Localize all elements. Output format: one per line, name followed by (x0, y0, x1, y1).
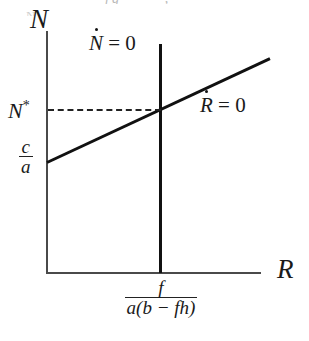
equilibrium-y-tick-label: N* (8, 95, 30, 122)
figure-canvas: ƒg—— —, — — N N R N = 0 R = 0 N* c a f a… (0, 0, 309, 341)
n-dot-nullcline-vertical-line (159, 44, 162, 273)
fraction-denominator: a(b − fh) (125, 297, 198, 317)
horizontal-axis-line (46, 272, 261, 274)
horizontal-axis-label: R (277, 256, 294, 283)
fraction-c-over-a: c a (19, 137, 33, 177)
vertical-axis-label: N (30, 6, 48, 33)
x-intercept-fraction-label: f a(b − fh) (98, 278, 224, 318)
r-dot-variable: R (200, 95, 213, 116)
fraction-f-over-abfh: f a(b − fh) (125, 278, 198, 318)
fraction-denominator: a (19, 156, 33, 176)
fraction-numerator: f (125, 278, 198, 297)
r-dot-equals-zero: = 0 (213, 93, 246, 117)
n-dot-nullcline-label: N = 0 (89, 33, 136, 54)
equilibrium-dashed-projector-line (48, 109, 161, 111)
n-dot-variable: N (89, 33, 103, 54)
equilibrium-y-symbol: N (8, 98, 23, 123)
y-intercept-fraction-label: c a (19, 137, 33, 177)
vertical-axis-line (46, 31, 48, 274)
equilibrium-y-asterisk: * (23, 98, 30, 113)
n-dot-equals-zero: = 0 (103, 31, 136, 55)
r-dot-nullcline-label: R = 0 (200, 95, 246, 116)
fraction-numerator: c (19, 137, 33, 156)
